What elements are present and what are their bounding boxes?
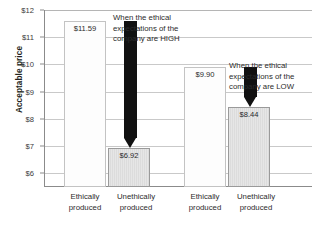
annotation-line: When the ethical [229, 61, 294, 72]
annotation-line: When the ethical [113, 13, 180, 24]
x-label-low-unethically-produced: Unethically produced [225, 192, 287, 213]
annotation-high-expectations: When the ethical expectations of the com… [113, 13, 180, 45]
y-axis-line [44, 10, 45, 187]
bar-low-unethically-produced: $8.44 [228, 107, 270, 187]
bar-chart: Acceptable price $12$11$10$9$8$7$6 $11.5… [0, 0, 318, 233]
annotation-line: expectations of the [113, 24, 180, 35]
x-label-line: Unethically [225, 192, 287, 203]
bar-high-unethically-produced: $6.92 [108, 148, 150, 187]
annotation-line: expectations of the [229, 72, 294, 83]
y-tick-label: $8 [8, 114, 34, 123]
y-tick-label: $10 [8, 60, 34, 69]
annotation-line: company are LOW [229, 82, 294, 93]
bar-value-label: $8.44 [229, 110, 269, 119]
bar-low-ethically-produced: $9.90 [184, 67, 226, 187]
y-tick-label: $6 [8, 169, 34, 178]
bar-high-ethically-produced: $11.59 [64, 21, 106, 187]
y-tick-label: $7 [8, 142, 34, 151]
x-label-line: produced [225, 203, 287, 214]
x-label-high-unethically-produced: Unethically produced [105, 192, 167, 213]
y-tick-label: $9 [8, 87, 34, 96]
annotation-line: company are HIGH [113, 34, 180, 45]
x-label-line: produced [105, 203, 167, 214]
annotation-low-expectations: When the ethical expectations of the com… [229, 61, 294, 93]
gridline [44, 10, 312, 11]
x-label-line: Unethically [105, 192, 167, 203]
bar-value-label: $6.92 [109, 151, 149, 160]
bar-value-label: $9.90 [185, 70, 225, 79]
bar-value-label: $11.59 [65, 24, 105, 33]
y-tick-label: $12 [8, 6, 34, 15]
y-tick-label: $11 [8, 33, 34, 42]
